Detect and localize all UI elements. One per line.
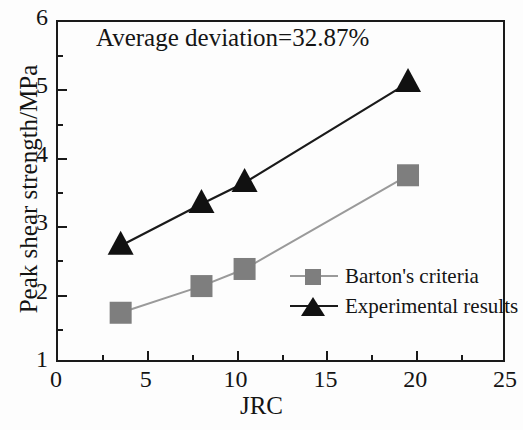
chart-annotation: Average deviation=32.87% [96, 24, 369, 52]
legend-triangle-marker-icon [290, 294, 338, 318]
x-tick-major [416, 351, 418, 360]
x-tick-label: 25 [475, 366, 523, 393]
y-tick-minor [58, 260, 63, 262]
y-tick-label: 5 [6, 72, 48, 99]
y-tick-minor [58, 329, 63, 331]
y-tick-major [58, 89, 67, 91]
x-tick-minor [461, 355, 463, 360]
y-tick-major [58, 226, 67, 228]
x-tick-minor [371, 355, 373, 360]
x-tick-major [147, 351, 149, 360]
x-tick-label: 10 [206, 366, 266, 393]
x-tick-minor [102, 355, 104, 360]
x-tick-minor [192, 355, 194, 360]
x-axis-label: JRC [0, 392, 523, 420]
legend-item-bartons-criteria: Barton's criteria [290, 261, 518, 291]
legend-label-experimental-results: Experimental results [345, 294, 518, 318]
x-tick-major [237, 351, 239, 360]
y-tick-minor [58, 124, 63, 126]
y-tick-minor [58, 55, 63, 57]
y-tick-major [58, 295, 67, 297]
y-tick-label: 6 [6, 4, 48, 31]
x-tick-major [326, 351, 328, 360]
x-tick-minor [282, 355, 284, 360]
x-tick-label: 15 [295, 366, 355, 393]
x-tick-label: 20 [385, 366, 445, 393]
y-tick-minor [58, 192, 63, 194]
y-tick-label: 4 [6, 141, 48, 168]
y-axis-label: Peak shear strength/MPa [15, 19, 43, 359]
chart-legend: Barton's criteria Experimental results [290, 261, 518, 321]
chart-figure: Peak shear strength/MPa JRC 0510152025 1… [0, 0, 523, 430]
y-tick-major [58, 158, 67, 160]
x-tick-label: 5 [116, 366, 176, 393]
legend-label-bartons-criteria: Barton's criteria [345, 264, 479, 288]
y-tick-label: 3 [6, 209, 48, 236]
legend-item-experimental-results: Experimental results [290, 291, 518, 321]
y-tick-label: 1 [6, 346, 48, 373]
legend-square-marker-icon [290, 264, 338, 288]
y-tick-label: 2 [6, 278, 48, 305]
